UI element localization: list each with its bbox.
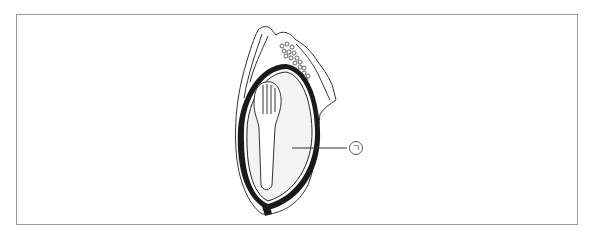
label-marker: ㄱ [349,141,363,155]
seed-diagram [0,0,594,240]
